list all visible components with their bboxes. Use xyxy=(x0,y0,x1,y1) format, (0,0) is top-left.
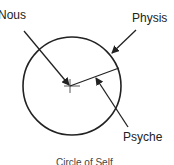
label-physis: Physis xyxy=(132,11,167,25)
label-nous: Nous xyxy=(0,8,26,22)
physis-arrow xyxy=(112,30,136,53)
radius-line xyxy=(70,68,119,86)
caption: Circle of Self xyxy=(56,157,113,165)
psyche-arrow xyxy=(96,78,128,127)
nous-arrow xyxy=(24,31,69,85)
label-psyche: Psyche xyxy=(123,130,162,144)
